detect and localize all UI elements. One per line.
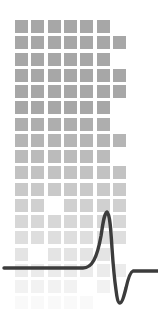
- grid-square: [48, 183, 61, 196]
- grid-square: [31, 296, 44, 309]
- grid-square: [48, 134, 61, 147]
- grid-square: [48, 69, 61, 82]
- grid-square: [97, 85, 110, 98]
- grid-square: [80, 150, 93, 163]
- grid-square: [48, 101, 61, 114]
- grid-square: [113, 166, 126, 179]
- grid-square: [80, 183, 93, 196]
- grid-square: [64, 183, 77, 196]
- grid-square: [80, 36, 93, 49]
- grid-square: [31, 36, 44, 49]
- grid-square: [80, 231, 93, 244]
- grid-square: [80, 264, 93, 277]
- grid-square: [64, 53, 77, 66]
- grid-square: [97, 101, 110, 114]
- grid-square: [15, 150, 28, 163]
- grid-square: [48, 53, 61, 66]
- grid-square: [64, 101, 77, 114]
- grid-square: [31, 150, 44, 163]
- grid-square: [48, 36, 61, 49]
- grid-square: [97, 166, 110, 179]
- square-grid: [0, 0, 158, 313]
- grid-square: [48, 280, 61, 293]
- grid-square: [31, 183, 44, 196]
- grid-square: [80, 69, 93, 82]
- grid-square: [97, 53, 110, 66]
- grid-square: [15, 280, 28, 293]
- grid-square: [15, 166, 28, 179]
- grid-square: [97, 199, 110, 212]
- grid-square: [113, 183, 126, 196]
- grid-square: [15, 296, 28, 309]
- grid-square: [31, 85, 44, 98]
- grid-square: [64, 166, 77, 179]
- grid-square: [48, 296, 61, 309]
- grid-square: [113, 231, 126, 244]
- grid-square: [15, 231, 28, 244]
- grid-square: [80, 134, 93, 147]
- grid-square: [15, 248, 28, 261]
- grid-square: [97, 36, 110, 49]
- grid-square: [64, 134, 77, 147]
- grid-square: [113, 215, 126, 228]
- grid-square: [97, 69, 110, 82]
- grid-square: [80, 118, 93, 131]
- grid-square: [31, 280, 44, 293]
- grid-square: [97, 231, 110, 244]
- grid-square: [64, 231, 77, 244]
- grid-square: [80, 166, 93, 179]
- grid-square: [80, 248, 93, 261]
- grid-square: [15, 101, 28, 114]
- grid-square: [31, 69, 44, 82]
- grid-square: [48, 85, 61, 98]
- grid-square: [113, 85, 126, 98]
- grid-square: [64, 20, 77, 33]
- grid-square: [64, 85, 77, 98]
- grid-square: [48, 20, 61, 33]
- grid-square: [97, 215, 110, 228]
- grid-square: [97, 280, 110, 293]
- grid-square: [31, 231, 44, 244]
- grid-square: [48, 248, 61, 261]
- grid-square: [80, 101, 93, 114]
- grid-square: [80, 199, 93, 212]
- grid-square: [31, 20, 44, 33]
- grid-square: [15, 183, 28, 196]
- grid-square: [31, 264, 44, 277]
- grid-square: [15, 20, 28, 33]
- grid-square: [64, 296, 77, 309]
- grid-square: [97, 134, 110, 147]
- grid-square: [31, 118, 44, 131]
- grid-square: [113, 199, 126, 212]
- grid-square: [48, 150, 61, 163]
- grid-square: [113, 134, 126, 147]
- grid-square: [80, 296, 93, 309]
- grid-square: [48, 166, 61, 179]
- grid-square: [31, 101, 44, 114]
- grid-square: [31, 215, 44, 228]
- grid-square: [31, 199, 44, 212]
- grid-square: [64, 215, 77, 228]
- grid-square: [31, 134, 44, 147]
- grid-square: [113, 264, 126, 277]
- grid-square: [64, 199, 77, 212]
- grid-square: [64, 248, 77, 261]
- grid-square: [31, 53, 44, 66]
- grid-square: [97, 118, 110, 131]
- logo-graphic: [0, 0, 158, 313]
- grid-square: [15, 199, 28, 212]
- grid-square: [80, 53, 93, 66]
- grid-square: [15, 69, 28, 82]
- grid-square: [31, 166, 44, 179]
- grid-square: [48, 215, 61, 228]
- grid-square: [113, 69, 126, 82]
- grid-square: [97, 20, 110, 33]
- grid-square: [48, 264, 61, 277]
- grid-square: [15, 264, 28, 277]
- grid-square: [80, 215, 93, 228]
- grid-square: [64, 150, 77, 163]
- grid-square: [80, 85, 93, 98]
- grid-square: [15, 85, 28, 98]
- grid-square: [15, 215, 28, 228]
- grid-square: [97, 248, 110, 261]
